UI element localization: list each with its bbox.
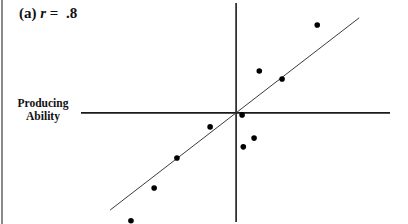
data-points xyxy=(128,22,320,223)
data-point-6 xyxy=(251,135,257,141)
data-point-8 xyxy=(174,155,180,161)
data-point-2 xyxy=(256,68,262,74)
data-point-7 xyxy=(240,144,246,150)
data-point-4 xyxy=(239,112,245,118)
scatter-plot xyxy=(0,0,408,224)
data-point-1 xyxy=(314,22,320,28)
data-point-9 xyxy=(151,185,157,191)
scatter-figure: (a) r = .8 Producing Ability xyxy=(0,0,408,224)
regression-line xyxy=(110,18,359,210)
data-point-10 xyxy=(128,218,134,224)
data-point-3 xyxy=(279,76,285,82)
data-point-5 xyxy=(207,124,213,130)
